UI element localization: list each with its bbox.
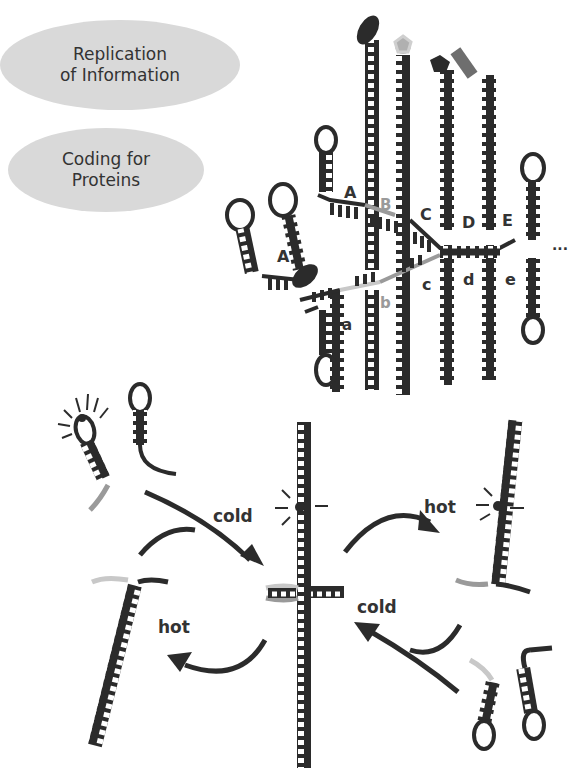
label-A-left: A [277, 247, 290, 266]
helix-2-lower [396, 265, 410, 395]
label-hot-2: hot [158, 617, 190, 637]
label-cold-2: cold [357, 597, 397, 617]
helix-4-lower [482, 245, 496, 380]
plain-hairpin [130, 384, 176, 474]
arrowhead-icon [167, 652, 192, 672]
label-C: C [420, 205, 432, 224]
helix-1 [365, 40, 379, 270]
center-target-helix [266, 422, 344, 768]
label-B: B [380, 196, 391, 214]
helix-3 [440, 70, 454, 230]
label-b: b [380, 294, 391, 312]
label-a: a [342, 316, 352, 334]
replication-diagram: A A B C D E a b c d e ... [0, 0, 584, 774]
right-released-helix [456, 420, 530, 592]
pentagon-cap-icon [430, 55, 450, 72]
rectangle-cap-icon [450, 47, 477, 78]
hairpin-left-pair [227, 184, 322, 293]
glowing-hairpin [58, 394, 110, 510]
label-D: D [462, 213, 475, 232]
hairpin-right-e [522, 154, 544, 343]
label-d: d [463, 270, 474, 289]
hairpin-upper [316, 127, 336, 192]
star-cap-icon [395, 36, 411, 54]
upper-replication-fork: A A B C D E a b c d e ... [227, 12, 568, 395]
oval-cap-icon [352, 12, 384, 49]
helix-1-lower [365, 290, 379, 390]
junction-duplex [440, 246, 500, 258]
arrow-hot-1 [345, 515, 430, 552]
hot-cold-cycle: cold hot [58, 384, 552, 768]
arrowhead-icon [240, 544, 264, 566]
label-E: E [502, 211, 513, 230]
label-e: e [505, 270, 516, 289]
arrow-hot-2 [185, 640, 265, 671]
label-c: c [422, 275, 431, 294]
label-cold-1: cold [213, 506, 253, 526]
label-A: A [344, 183, 357, 202]
label-hot-1: hot [424, 497, 456, 517]
helix-4 [482, 75, 496, 230]
left-released-helix [88, 578, 168, 747]
arrow-cold-2 [368, 630, 458, 692]
helix-3-lower [440, 245, 454, 385]
ellipsis: ... [552, 237, 568, 253]
free-hairpins [470, 648, 552, 749]
arrow-cold-1 [145, 492, 250, 560]
